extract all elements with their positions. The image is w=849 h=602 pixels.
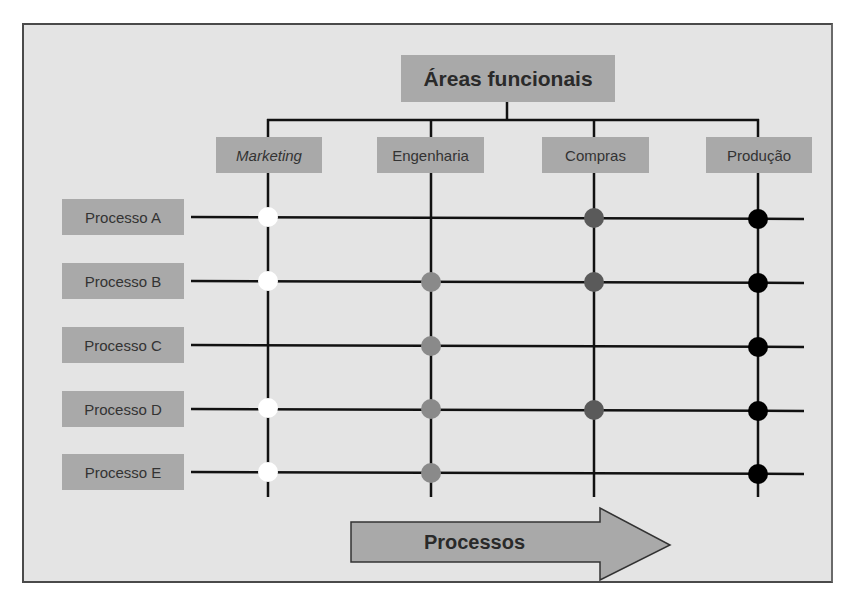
marker-a-marketing — [258, 207, 278, 227]
marker-a-compras — [584, 208, 604, 228]
process-e: Processo E — [62, 454, 184, 490]
process-b: Processo B — [62, 263, 184, 299]
process-c: Processo C — [62, 327, 184, 363]
marker-e-producao — [748, 464, 768, 484]
marker-b-engenharia — [421, 272, 441, 292]
area-engenharia: Engenharia — [377, 137, 484, 173]
area-producao: Produção — [706, 137, 812, 173]
marker-d-compras — [584, 400, 604, 420]
marker-b-marketing — [258, 271, 278, 291]
marker-b-compras — [584, 272, 604, 292]
process-a: Processo A — [62, 199, 184, 235]
processos-arrow-label: Processos — [352, 522, 597, 562]
marker-d-producao — [748, 401, 768, 421]
marker-d-marketing — [258, 398, 278, 418]
marker-e-marketing — [258, 462, 278, 482]
marker-b-producao — [748, 273, 768, 293]
marker-a-producao — [748, 209, 768, 229]
marker-c-producao — [748, 337, 768, 357]
area-compras: Compras — [542, 137, 649, 173]
marker-e-engenharia — [421, 463, 441, 483]
title-areas-funcionais: Áreas funcionais — [401, 55, 615, 102]
marker-d-engenharia — [421, 399, 441, 419]
area-marketing: Marketing — [216, 137, 322, 173]
process-d: Processo D — [62, 391, 184, 427]
marker-c-engenharia — [421, 336, 441, 356]
